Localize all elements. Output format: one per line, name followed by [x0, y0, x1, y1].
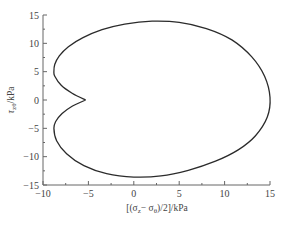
tick-labels: −10−5051015151050−5−10−15: [23, 10, 275, 200]
x-axis-label: [(σz− σθ)/2]/kPa: [126, 203, 188, 215]
x-tick-label: 0: [131, 188, 136, 199]
x-tick-label: −5: [83, 188, 94, 199]
y-tick-label: 0: [34, 95, 39, 106]
y-tick-label: 5: [34, 66, 39, 77]
y-tick-label: 10: [29, 38, 39, 49]
stress-path-chart: −10−5051015151050−5−10−15 [(σz− σθ)/2]/k…: [0, 0, 282, 225]
y-axis-label: τzθ/kPa: [6, 86, 18, 114]
y-tick-label: −10: [23, 151, 39, 162]
y-tick-label: 15: [29, 10, 39, 21]
stress-path-curve: [54, 21, 270, 177]
y-tick-label: −5: [28, 123, 39, 134]
x-tick-label: 10: [220, 188, 230, 199]
y-tick-label: −15: [23, 180, 39, 191]
x-tick-label: 15: [265, 188, 275, 199]
x-tick-label: 5: [177, 188, 182, 199]
